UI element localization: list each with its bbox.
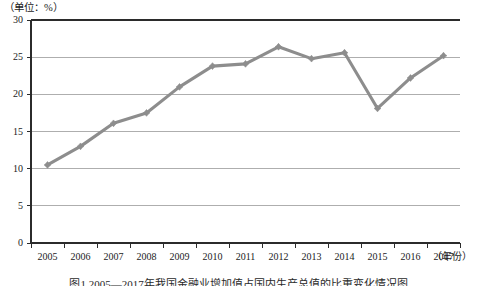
line-chart-svg [0,0,477,286]
figure-caption: 图1 2005—2017年我国金融业增加值占国内生产总值的比重变化情况图 [0,277,477,286]
y-axis-tick-label: 25 [1,52,23,62]
x-axis-unit-label: （年份） [432,251,472,262]
y-axis-tick-label: 0 [1,238,23,248]
y-axis-tick-label: 30 [1,15,23,25]
y-axis-tick-label: 5 [1,201,23,211]
y-axis-tick-label: 20 [1,89,23,99]
y-axis-tick-label: 15 [1,127,23,137]
figure-container: （单位：%） 051015202530 20052006200720082009… [0,0,477,286]
y-axis-tick-label: 10 [1,164,23,174]
plot-area [0,0,477,286]
